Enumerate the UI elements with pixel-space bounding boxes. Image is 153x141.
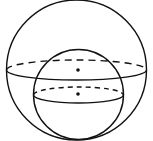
outer-center-dot bbox=[76, 68, 80, 72]
outer-equator-back bbox=[7, 60, 147, 70]
outer-equator-front bbox=[7, 70, 147, 80]
inner-equator-front bbox=[34, 95, 124, 103]
inner-center-dot bbox=[76, 92, 80, 96]
sphere-diagram bbox=[0, 0, 153, 141]
